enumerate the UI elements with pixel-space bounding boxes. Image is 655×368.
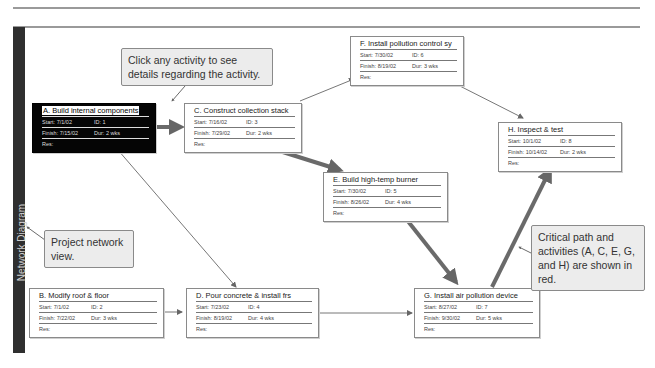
activity-res-row: Res: bbox=[194, 138, 295, 149]
activity-title: A. Build internal components bbox=[33, 104, 155, 116]
activity-finish-row: Finish: 8/26/02Dur: 4 wks bbox=[333, 196, 441, 207]
activity-start-row: Start: 7/30/02ID: 6 bbox=[360, 49, 457, 60]
activity-title: F. Install pollution control sy bbox=[351, 37, 463, 49]
activity-res-row: Res: bbox=[39, 323, 157, 334]
activity-res-row: Res: bbox=[508, 157, 615, 168]
activity-node-c[interactable]: C. Construct collection stack Start: 7/1… bbox=[184, 103, 302, 153]
arrow-c-f bbox=[300, 79, 354, 101]
activity-start-row: Start: 10/1/02ID: 8 bbox=[508, 135, 615, 146]
activity-start-row: Start: 7/30/02ID: 5 bbox=[333, 185, 441, 196]
activity-start-row: Start: 8/27/02ID: 7 bbox=[424, 301, 533, 312]
activity-finish-row: Finish: 7/22/02Dur: 3 wks bbox=[39, 312, 157, 323]
activity-res-row: Res: bbox=[196, 323, 312, 334]
callout-pointer-network bbox=[27, 227, 45, 240]
activity-res-row: Res: bbox=[42, 138, 149, 149]
activity-title: G. Install air pollution device bbox=[415, 289, 539, 301]
arrow-a-d bbox=[118, 150, 236, 287]
activity-finish-row: Finish: 8/19/02Dur: 4 wks bbox=[196, 312, 312, 323]
activity-finish-row: Finish: 7/15/02Dur: 2 wks bbox=[42, 127, 149, 138]
activity-title: D. Pour concrete & install frs bbox=[187, 289, 318, 301]
callout-project-network-view: Project network view. bbox=[44, 230, 134, 268]
activity-start-row: Start: 7/1/02ID: 1 bbox=[42, 116, 149, 127]
activity-title: H. Inspect & test bbox=[499, 123, 621, 135]
activity-start-row: Start: 7/16/02ID: 3 bbox=[194, 116, 295, 127]
activity-finish-row: Finish: 7/29/02Dur: 2 wks bbox=[194, 127, 295, 138]
activity-title: E. Build high-temp burner bbox=[324, 173, 447, 185]
activity-res-row: Res: bbox=[360, 71, 457, 82]
activity-finish-row: Finish: 9/30/02Dur: 5 wks bbox=[424, 312, 533, 323]
activity-finish-row: Finish: 8/19/02Dur: 3 wks bbox=[360, 60, 457, 71]
activity-res-row: Res: bbox=[333, 207, 441, 218]
activity-node-f[interactable]: F. Install pollution control sy Start: 7… bbox=[350, 36, 464, 86]
activity-node-d[interactable]: D. Pour concrete & install frs Start: 7/… bbox=[186, 288, 319, 338]
callout-pointer-click bbox=[172, 86, 185, 101]
activity-start-row: Start: 7/23/02ID: 4 bbox=[196, 301, 312, 312]
activity-finish-row: Finish: 10/14/02Dur: 2 wks bbox=[508, 146, 615, 157]
activity-node-a[interactable]: A. Build internal components Start: 7/1/… bbox=[32, 103, 156, 153]
arrow-e-g bbox=[407, 220, 456, 282]
activity-res-row: Res: bbox=[424, 323, 533, 334]
activity-start-row: Start: 7/1/02ID: 2 bbox=[39, 301, 157, 312]
activity-title: C. Construct collection stack bbox=[185, 104, 301, 116]
callout-critical-path: Critical path and activities (A, C, E, G… bbox=[531, 225, 645, 291]
activity-title: B. Modify roof & floor bbox=[30, 289, 163, 301]
activity-node-h[interactable]: H. Inspect & test Start: 10/1/02ID: 8 Fi… bbox=[498, 122, 622, 172]
activity-node-g[interactable]: G. Install air pollution device Start: 8… bbox=[414, 288, 540, 338]
callout-click-activity: Click any activity to see details regard… bbox=[121, 48, 273, 86]
callout-pointer-critical bbox=[519, 247, 531, 253]
activity-node-e[interactable]: E. Build high-temp burner Start: 7/30/02… bbox=[323, 172, 448, 222]
activity-node-b[interactable]: B. Modify roof & floor Start: 7/1/02ID: … bbox=[29, 288, 164, 338]
